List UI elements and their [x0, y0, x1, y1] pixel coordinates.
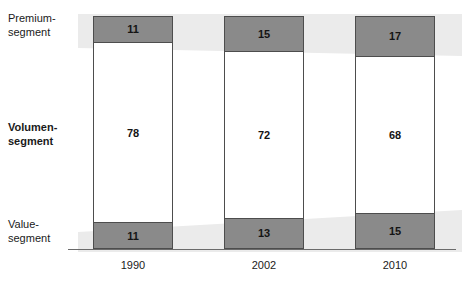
bar-2010-premium-value: 17 — [389, 30, 401, 42]
x-axis-tick-1990: 1990 — [93, 259, 173, 271]
bar-2010-segment-volumen: 68 — [356, 57, 434, 213]
bar-1990-segment-volumen: 78 — [94, 43, 172, 223]
bar-1990-premium-value: 11 — [127, 23, 139, 35]
bar-2002-segment-value: 13 — [225, 218, 303, 248]
plot-area: 11 78 11 15 72 13 17 — [0, 0, 469, 285]
bar-2010-volumen-value: 68 — [389, 129, 401, 141]
bar-1990-segment-premium: 11 — [94, 17, 172, 43]
bar-2002: 15 72 13 — [224, 16, 304, 249]
bar-2002-segment-premium: 15 — [225, 17, 303, 52]
bar-1990-volumen-value: 78 — [127, 127, 139, 139]
bar-2010: 17 68 15 — [355, 16, 435, 249]
bar-2010-segment-value: 15 — [356, 213, 434, 248]
bar-2002-segment-volumen: 72 — [225, 52, 303, 218]
stacked-bar-chart: Premium- segment Volumen- segment Value-… — [0, 0, 469, 285]
bar-1990-segment-value: 11 — [94, 222, 172, 248]
x-axis-tick-2010: 2010 — [355, 259, 435, 271]
bar-2010-segment-premium: 17 — [356, 17, 434, 57]
bar-1990-value-value: 11 — [127, 230, 139, 242]
bar-2002-value-value: 13 — [258, 227, 270, 239]
x-axis-line — [68, 249, 456, 250]
bar-2002-premium-value: 15 — [258, 28, 270, 40]
x-axis-tick-2002: 2002 — [224, 259, 304, 271]
bar-2002-volumen-value: 72 — [258, 129, 270, 141]
bar-1990: 11 78 11 — [93, 16, 173, 249]
bar-2010-value-value: 15 — [389, 225, 401, 237]
